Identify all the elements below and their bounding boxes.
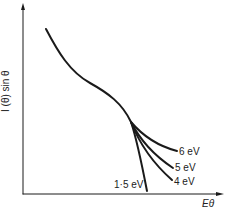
label-4ev: 4 eV [174,177,195,187]
x-axis-label: Eθ [202,199,214,209]
label-5ev: 5 eV [175,163,196,173]
label-6ev: 6 eV [179,147,200,157]
y-axis-arrow-icon [21,3,25,10]
label-1-5ev: 1·5 eV [114,180,143,190]
common-curve [46,29,131,122]
x-axis-arrow-icon [216,192,224,196]
y-axis-label: I (θ) sin θ [1,70,11,112]
